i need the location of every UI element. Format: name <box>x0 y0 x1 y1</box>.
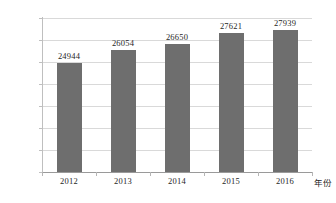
x-axis-tick <box>150 172 151 176</box>
bar-value-label: 27621 <box>220 21 242 31</box>
bar <box>219 33 244 172</box>
bar-value-label: 26054 <box>112 38 134 48</box>
bar <box>273 30 298 172</box>
x-axis-tick <box>42 172 43 176</box>
x-axis-tick-label: 2015 <box>222 176 240 186</box>
bar-value-label: 27939 <box>274 18 296 28</box>
x-axis-tick <box>96 172 97 176</box>
x-axis-tick <box>312 172 313 176</box>
x-axis-line <box>42 172 313 173</box>
x-axis-tick-label: 2016 <box>276 176 294 186</box>
x-axis-tick-label: 2014 <box>168 176 186 186</box>
bar-value-label: 26650 <box>166 32 188 42</box>
x-axis-tick <box>204 172 205 176</box>
x-axis-tick <box>258 172 259 176</box>
y-axis-line <box>42 17 43 173</box>
plot-area: 2494426054266502762127939 <box>42 18 312 172</box>
x-axis-title: 年份 <box>314 176 332 188</box>
bar <box>165 44 190 172</box>
x-axis-tick-label: 2013 <box>114 176 132 186</box>
x-axis-tick-label: 2012 <box>60 176 78 186</box>
bar-value-label: 24944 <box>58 51 80 61</box>
bar-chart: 2900027000250002300021000190001700015000… <box>0 0 336 203</box>
bar <box>57 63 82 172</box>
gridline <box>42 18 312 19</box>
bar <box>111 50 136 172</box>
